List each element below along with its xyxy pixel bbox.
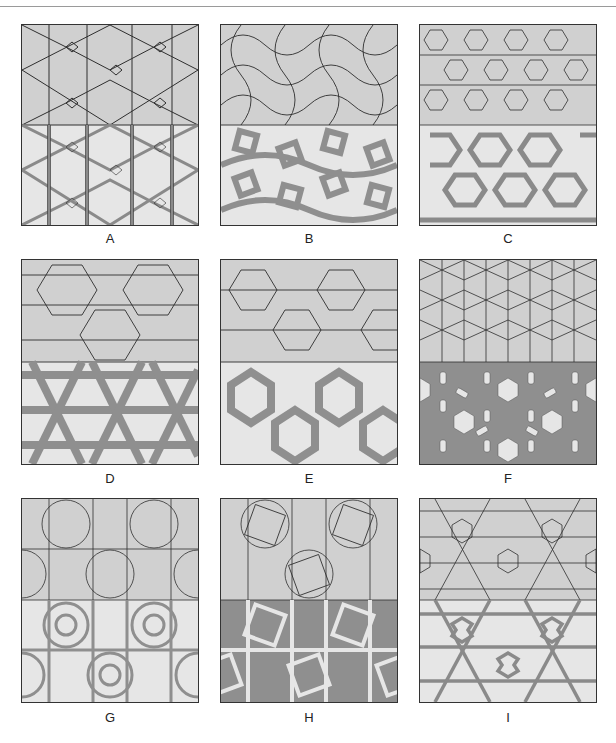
panel-label-e: E xyxy=(220,471,398,486)
pattern-b-graphic xyxy=(221,25,397,225)
pattern-panel-b xyxy=(220,24,398,226)
panel-label-c: C xyxy=(419,231,597,246)
pattern-e-graphic xyxy=(221,260,397,464)
pattern-panel-a xyxy=(21,24,199,226)
pattern-panel-e xyxy=(220,259,398,465)
pattern-i-graphic xyxy=(420,499,596,702)
panel-label-g: G xyxy=(21,710,199,725)
pattern-panel-g xyxy=(21,498,199,703)
panel-label-f: F xyxy=(419,471,597,486)
panel-label-i: I xyxy=(419,710,597,725)
pattern-c-graphic xyxy=(420,25,596,225)
panel-label-a: A xyxy=(21,231,199,246)
panel-label-b: B xyxy=(220,231,398,246)
pattern-panel-i xyxy=(419,498,597,703)
panel-label-d: D xyxy=(21,471,199,486)
pattern-panel-c xyxy=(419,24,597,226)
pattern-panel-h xyxy=(220,498,398,703)
pattern-h-graphic xyxy=(221,499,397,702)
header-rule xyxy=(0,6,616,7)
pattern-panel-d xyxy=(21,259,199,465)
pattern-d-graphic xyxy=(22,260,198,464)
pattern-panel-f xyxy=(419,259,597,465)
pattern-g-graphic xyxy=(22,499,198,702)
panel-label-h: H xyxy=(220,710,398,725)
pattern-a-graphic xyxy=(22,25,198,225)
pattern-f-graphic xyxy=(420,260,596,464)
